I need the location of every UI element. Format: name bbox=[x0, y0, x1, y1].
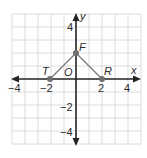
y-tick-neg4: −4 bbox=[60, 126, 73, 138]
x-tick-neg4: −4 bbox=[8, 82, 21, 94]
point-T-label: T bbox=[42, 65, 50, 77]
origin-label: O bbox=[64, 66, 73, 78]
coordinate-plane: x y −4 −2 2 4 4 −2 −4 O T F R bbox=[0, 0, 147, 158]
y-tick-4: 4 bbox=[67, 21, 73, 33]
x-tick-4: 4 bbox=[124, 82, 130, 94]
y-axis-label: y bbox=[79, 10, 87, 22]
x-tick-neg2: −2 bbox=[40, 82, 53, 94]
y-tick-neg2: −2 bbox=[60, 101, 73, 113]
point-F-label: F bbox=[79, 41, 87, 53]
x-axis-label: x bbox=[130, 64, 137, 76]
point-R-label: R bbox=[104, 65, 112, 77]
x-tick-2: 2 bbox=[98, 82, 104, 94]
